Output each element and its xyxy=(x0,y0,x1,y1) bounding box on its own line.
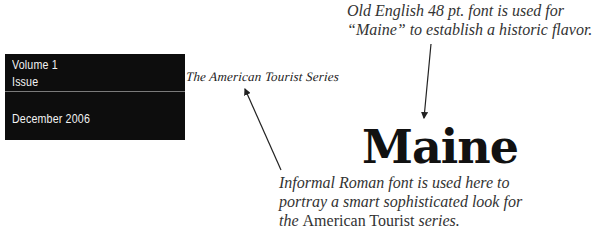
arrow-to-maine-icon xyxy=(424,44,431,118)
arrow-to-series-title-icon xyxy=(245,89,281,170)
